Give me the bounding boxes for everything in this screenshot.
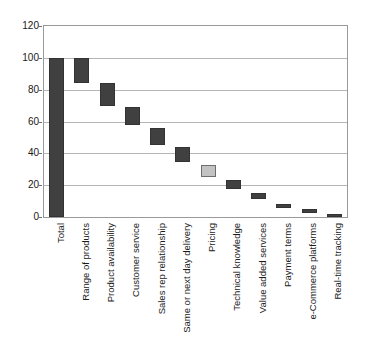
y-tick-mark [38, 153, 42, 154]
x-tick: Sales rep relationship [144, 219, 169, 346]
x-tick-label: Payment terms [283, 223, 293, 287]
bar-technical-knowledge [226, 180, 241, 189]
x-tick-label: Real-time tracking [333, 223, 343, 300]
gridline [44, 58, 347, 59]
x-tick-label: Sales rep relationship [157, 223, 167, 314]
y-tick-mark [38, 26, 42, 27]
y-tick-label: 120 [0, 21, 39, 31]
x-axis: TotalRange of productsProduct availabili… [43, 219, 348, 346]
x-tick: Customer service [119, 219, 144, 346]
x-tick-label: e-Commerce platforms [308, 223, 318, 320]
bar-real-time-tracking [327, 214, 342, 217]
x-tick: Pricing [195, 219, 220, 346]
y-tick-label: 0 [0, 212, 39, 222]
y-axis: 020406080100120 [0, 25, 39, 218]
y-tick-mark [38, 122, 42, 123]
y-tick-mark [38, 217, 42, 218]
gridline [44, 185, 347, 186]
waterfall-chart: 020406080100120 TotalRange of productsPr… [0, 0, 365, 346]
y-tick-label: 40 [0, 148, 39, 158]
y-tick-label: 60 [0, 117, 39, 127]
y-tick-label: 20 [0, 180, 39, 190]
x-tick-label: Product availability [106, 223, 116, 302]
bar-e-commerce-platforms [302, 209, 317, 213]
bar-product-availability [100, 83, 115, 105]
gridline [44, 153, 347, 154]
x-tick-label: Customer service [131, 223, 141, 297]
y-tick-label: 100 [0, 53, 39, 63]
x-tick: Total [43, 219, 68, 346]
x-tick: Real-time tracking [321, 219, 346, 346]
gridline [44, 90, 347, 91]
x-tick: Value added services [245, 219, 270, 346]
y-tick-mark [38, 58, 42, 59]
bar-pricing [201, 165, 216, 178]
x-tick: e-Commerce platforms [296, 219, 321, 346]
x-tick: Same or next day delivery [169, 219, 194, 346]
x-tick-label: Pricing [207, 223, 217, 252]
bar-value-added-services [251, 193, 266, 199]
bar-customer-service [125, 107, 140, 125]
x-tick-label: Same or next day delivery [182, 223, 192, 333]
x-tick-label: Value added services [258, 223, 268, 313]
x-tick-label: Total [56, 223, 66, 243]
bar-total [49, 58, 64, 217]
bar-range-of-products [74, 58, 89, 84]
plot-area [43, 25, 348, 218]
y-tick-mark [38, 185, 42, 186]
bar-same-or-next-day-delivery [175, 147, 190, 162]
y-tick-mark [38, 90, 42, 91]
x-tick-label: Technical knowledge [232, 223, 242, 311]
bar-sales-rep-relationship [150, 128, 165, 146]
x-tick: Product availability [94, 219, 119, 346]
y-tick-label: 80 [0, 85, 39, 95]
gridline [44, 122, 347, 123]
x-tick: Technical knowledge [220, 219, 245, 346]
x-tick-label: Range of products [81, 223, 91, 301]
x-tick: Range of products [68, 219, 93, 346]
bar-payment-terms [276, 204, 291, 208]
x-tick: Payment terms [270, 219, 295, 346]
